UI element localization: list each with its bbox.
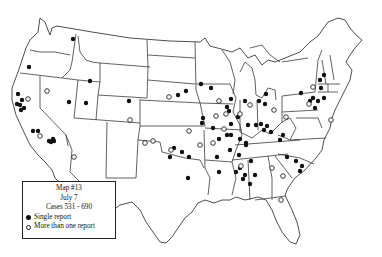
single-report-marker (241, 177, 245, 181)
single-report-marker (257, 99, 261, 103)
multi-report-marker (329, 118, 334, 123)
multi-report-marker (272, 108, 277, 113)
multi-report-marker (307, 102, 312, 107)
single-report-marker (265, 124, 269, 128)
single-report-marker (84, 101, 88, 105)
multi-report-marker (198, 143, 203, 148)
single-report-marker (259, 122, 263, 126)
single-report-marker (27, 65, 31, 69)
single-report-marker (199, 82, 203, 86)
multi-report-marker (214, 114, 219, 119)
legend-item-multi: More than one report (23, 222, 115, 232)
multi-report-marker (279, 198, 284, 203)
multi-report-marker (284, 115, 289, 120)
single-report-marker (201, 116, 205, 120)
legend-item-single: Single report (23, 213, 115, 223)
single-report-marker (200, 121, 204, 125)
single-report-marker (281, 133, 285, 137)
legend-label-single: Single report (34, 213, 71, 223)
multi-report-marker (38, 134, 43, 139)
single-report-marker (176, 93, 180, 97)
single-report-marker (88, 79, 92, 83)
single-report-marker (322, 96, 326, 100)
single-report-marker (18, 103, 22, 107)
multi-report-marker (169, 148, 174, 153)
single-report-marker (36, 129, 40, 133)
multi-report-marker (211, 141, 216, 146)
single-report-marker (229, 97, 233, 101)
single-report-marker (244, 143, 248, 147)
single-report-marker (229, 133, 233, 137)
single-report-marker (318, 78, 322, 82)
single-report-marker (237, 153, 241, 157)
single-report-marker (269, 130, 273, 134)
legend-title: Map #13 (23, 184, 115, 194)
single-report-marker (263, 102, 267, 106)
single-report-marker (246, 123, 250, 127)
single-report-marker (243, 99, 247, 103)
multi-report-marker (248, 103, 253, 108)
single-report-marker (299, 91, 303, 95)
single-report-marker (253, 173, 257, 177)
legend-label-multi: More than one report (34, 222, 95, 232)
multi-report-marker (281, 174, 286, 179)
single-report-marker (225, 105, 229, 109)
single-report-marker (249, 159, 253, 163)
single-report-marker (186, 176, 190, 180)
single-report-marker (300, 164, 304, 168)
single-report-marker (22, 106, 26, 110)
multi-report-marker (270, 166, 275, 171)
single-report-marker (248, 182, 252, 186)
multi-report-marker (239, 164, 244, 169)
single-report-marker (209, 86, 213, 90)
single-report-marker (211, 126, 215, 130)
multi-report-marker (187, 129, 192, 134)
filled-circle-icon (26, 215, 31, 220)
single-report-marker (229, 122, 233, 126)
multi-report-marker (311, 85, 316, 90)
single-report-marker (294, 159, 298, 163)
single-report-marker (217, 137, 221, 141)
single-report-marker (254, 123, 258, 127)
single-report-marker (180, 150, 184, 154)
legend-date: July 7 (23, 194, 115, 204)
single-report-marker (127, 99, 131, 103)
single-report-marker (215, 155, 219, 159)
multi-report-marker (217, 99, 222, 104)
single-report-marker (217, 170, 221, 174)
single-report-marker (31, 129, 35, 133)
single-report-marker (234, 170, 238, 174)
multi-report-marker (72, 155, 77, 160)
single-report-marker (225, 133, 229, 137)
multi-report-marker (143, 141, 148, 146)
legend-cases: Cases 531 - 690 (23, 203, 115, 213)
single-report-marker (184, 89, 188, 93)
single-report-marker (322, 73, 326, 77)
multi-report-marker (151, 139, 156, 144)
single-report-marker (319, 86, 323, 90)
multi-report-marker (222, 127, 227, 132)
single-report-marker (313, 106, 317, 110)
single-report-marker (316, 99, 320, 103)
single-report-marker (67, 100, 71, 104)
single-report-marker (187, 155, 191, 159)
single-report-marker (311, 96, 315, 100)
single-report-marker (228, 148, 232, 152)
open-circle-icon (26, 225, 31, 230)
multi-report-marker (167, 95, 172, 100)
single-report-marker (71, 37, 75, 41)
multi-report-marker (224, 112, 229, 117)
single-report-marker (16, 92, 20, 96)
map-legend: Map #13 July 7 Cases 531 - 690 Single re… (22, 181, 116, 239)
single-report-marker (262, 128, 266, 132)
single-report-marker (264, 92, 268, 96)
single-report-marker (278, 138, 282, 142)
single-report-marker (168, 155, 172, 159)
single-report-marker (238, 137, 242, 141)
multi-report-marker (45, 89, 50, 94)
single-report-marker (52, 139, 56, 143)
multi-report-marker (238, 112, 243, 117)
multi-report-marker (26, 97, 31, 102)
single-report-marker (243, 173, 247, 177)
single-report-marker (285, 155, 289, 159)
